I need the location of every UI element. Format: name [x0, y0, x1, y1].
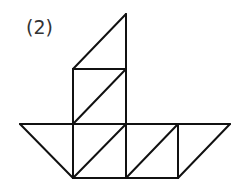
hull-right-slope-line — [178, 124, 230, 178]
sail-mid-diagonal-line — [73, 69, 126, 124]
sailboat-diagram — [0, 0, 241, 188]
hull-left-slope-line — [20, 124, 73, 178]
hull-diag-1-line — [73, 124, 126, 178]
hull-diag-2-line — [126, 124, 178, 178]
sail-top-diagonal-line — [73, 14, 126, 69]
